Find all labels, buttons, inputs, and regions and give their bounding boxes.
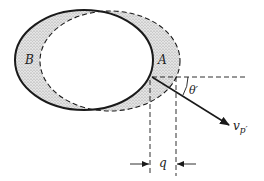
label-region-a: A	[157, 53, 167, 67]
label-velocity: vp′	[233, 119, 248, 135]
label-region-b: B	[24, 53, 34, 67]
label-angle: θ′	[189, 84, 199, 97]
diagram-canvas: B A θ′ vp′ q	[0, 0, 264, 181]
angle-arc	[183, 77, 188, 95]
label-velocity-subscript: p′	[240, 125, 248, 135]
label-offset-q: q	[159, 156, 167, 170]
